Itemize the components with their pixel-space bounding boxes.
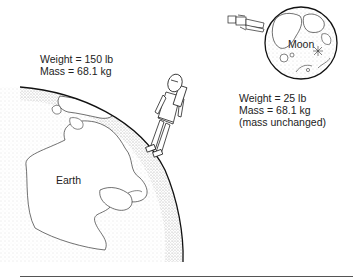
moon-weight-text: Weight = 25 lb xyxy=(239,92,326,104)
earth-label: Earth xyxy=(56,174,81,186)
bottom-divider xyxy=(20,276,353,277)
moon-mass-note: (mass unchanged) xyxy=(239,116,326,128)
earth-mass-text: Mass = 68.1 kg xyxy=(40,65,113,77)
astronaut-on-moon xyxy=(228,15,264,32)
moon-measurements: Weight = 25 lb Mass = 68.1 kg (mass unch… xyxy=(239,92,326,128)
moon-mass-text: Mass = 68.1 kg xyxy=(239,104,326,116)
astronaut-on-earth xyxy=(146,72,187,157)
earth-weight-text: Weight = 150 lb xyxy=(40,53,113,65)
earth-measurements: Weight = 150 lb Mass = 68.1 kg xyxy=(40,53,113,77)
moon-label: Moon xyxy=(288,38,314,50)
